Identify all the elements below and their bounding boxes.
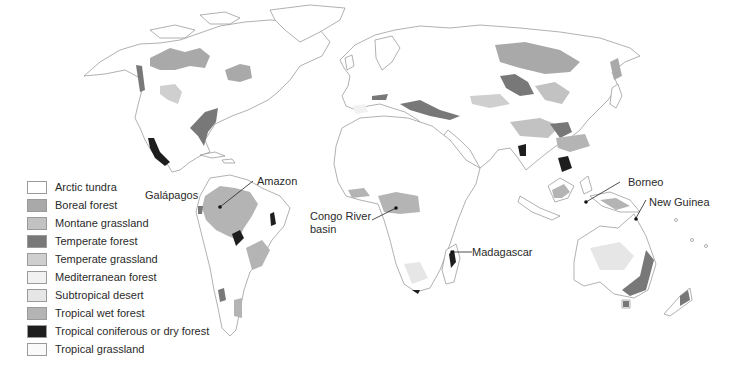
swatch-tropical-coniferous-dry-forest	[27, 325, 47, 338]
legend-label: Tropical coniferous or dry forest	[55, 325, 209, 337]
maritime-southeast-asia	[518, 176, 640, 220]
callout-congo-line2: basin	[310, 223, 336, 236]
swatch-subtropical-desert	[27, 289, 47, 302]
legend-label: Mediterranean forest	[55, 271, 157, 283]
swatch-temperate-forest	[27, 235, 47, 248]
legend-item-temperate-grassland: Temperate grassland	[27, 250, 209, 268]
swatch-temperate-grassland	[27, 253, 47, 266]
legend-label: Boreal forest	[55, 199, 117, 211]
legend-label: Montane grassland	[55, 217, 149, 229]
swatch-boreal-forest	[27, 199, 47, 212]
africa	[334, 116, 480, 294]
legend-label: Temperate grassland	[55, 253, 158, 265]
legend-label: Tropical wet forest	[55, 307, 144, 319]
callout-borneo: Borneo	[628, 176, 663, 189]
legend-label: Tropical grassland	[55, 343, 144, 355]
legend-item-tropical-grassland: Tropical grassland	[27, 340, 209, 358]
legend-item-subtropical-desert: Subtropical desert	[27, 286, 209, 304]
callout-madagascar: Madagascar	[472, 246, 533, 259]
legend-label: Arctic tundra	[55, 181, 117, 193]
legend-label: Temperate forest	[55, 235, 138, 247]
callout-amazon: Amazon	[257, 175, 297, 188]
legend-item-tropical-wet-forest: Tropical wet forest	[27, 304, 209, 322]
pacific-islands	[675, 219, 708, 248]
legend-item-tropical-coniferous-dry-forest: Tropical coniferous or dry forest	[27, 322, 209, 340]
swatch-mediterranean-forest	[27, 271, 47, 284]
australia	[574, 214, 692, 316]
swatch-montane-grassland	[27, 217, 47, 230]
callout-congo-line1: Congo River	[310, 210, 371, 223]
swatch-arctic-tundra	[27, 181, 47, 194]
swatch-tropical-wet-forest	[27, 307, 47, 320]
swatch-tropical-grassland	[27, 343, 47, 356]
legend-item-mediterranean-forest: Mediterranean forest	[27, 268, 209, 286]
north-america	[84, 5, 345, 172]
legend-item-temperate-forest: Temperate forest	[27, 232, 209, 250]
legend-item-montane-grassland: Montane grassland	[27, 214, 209, 232]
legend: Arctic tundra Boreal forest Montane gras…	[27, 178, 209, 358]
south-america	[196, 175, 290, 336]
legend-label: Subtropical desert	[55, 289, 144, 301]
callout-new-guinea: New Guinea	[649, 196, 710, 209]
callout-galapagos: Galápagos	[145, 189, 198, 202]
